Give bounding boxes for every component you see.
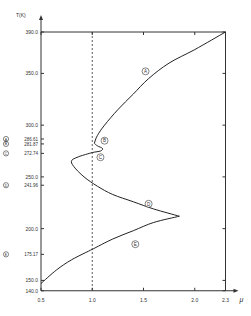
y-tick-label: 272.74 [24, 151, 38, 156]
chart: T(K)μ390.0350.0300.0250.0200.0150.0140.0… [0, 0, 251, 316]
curve-label-a: A [144, 69, 147, 74]
y-tick-label: 281.87 [24, 142, 38, 147]
x-tick-label: 2.3 [222, 297, 229, 303]
y-tick-label: 390.0 [25, 29, 38, 35]
curve-label-b: B [103, 138, 106, 143]
y-tick-label: 140.0 [25, 288, 38, 294]
x-tick-label: 2.0 [191, 297, 198, 303]
labels: ABCDE [97, 68, 152, 248]
marker-letter: D [5, 184, 8, 188]
curve-a [94, 32, 225, 143]
y-tick-label: 250.0 [25, 174, 38, 180]
x-axis-arrow [234, 289, 239, 293]
x-axis-label: μ [239, 296, 244, 304]
marker-letter: C [5, 152, 8, 156]
y-tick-label: 300.0 [25, 122, 38, 128]
x-tick-label: 0.5 [38, 297, 45, 303]
curve-e [41, 249, 92, 283]
y-tick-label: 241.96 [24, 183, 38, 188]
y-axis-arrow [39, 15, 43, 20]
y-axis-label: T(K) [16, 12, 26, 18]
y-tick-label: 150.0 [25, 277, 38, 283]
curve-c [71, 156, 179, 216]
curve-label-e: E [134, 242, 137, 247]
x-tick-label: 1.0 [89, 297, 96, 303]
y-tick-label: 350.0 [25, 70, 38, 76]
axes: T(K)μ390.0350.0300.0250.0200.0150.0140.0… [3, 12, 243, 304]
y-tick-label: 200.0 [25, 226, 38, 232]
x-tick-label: 1.5 [140, 297, 147, 303]
y-tick-label: 175.17 [24, 252, 38, 257]
